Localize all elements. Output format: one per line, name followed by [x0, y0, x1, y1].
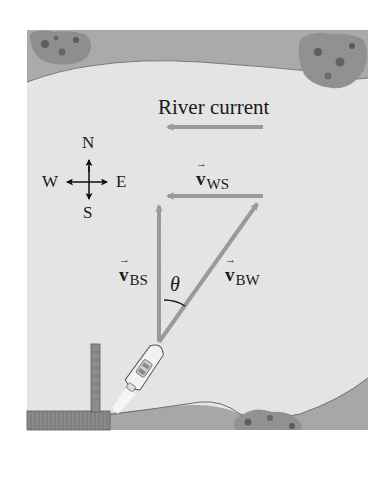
- river-current-label: River current: [158, 95, 269, 120]
- angle-theta-label: θ: [170, 273, 180, 296]
- vector-subscript: WS: [207, 176, 230, 192]
- vector-symbol: v: [225, 264, 235, 285]
- river-crossing-diagram: [0, 0, 391, 488]
- compass-west-label: W: [42, 172, 58, 192]
- vector-v-bs-label: vBS: [119, 264, 148, 289]
- compass-north-label: N: [82, 133, 94, 153]
- vector-subscript: BW: [236, 272, 260, 288]
- vector-symbol: v: [196, 168, 206, 189]
- compass-south-label: S: [83, 203, 92, 223]
- vector-v-bw-label: vBW: [225, 264, 260, 289]
- river-water: [27, 30, 368, 430]
- vector-subscript: BS: [130, 272, 148, 288]
- compass-east-label: E: [116, 172, 126, 192]
- vector-symbol: v: [119, 264, 129, 285]
- vector-v-ws-label: vWS: [196, 168, 229, 193]
